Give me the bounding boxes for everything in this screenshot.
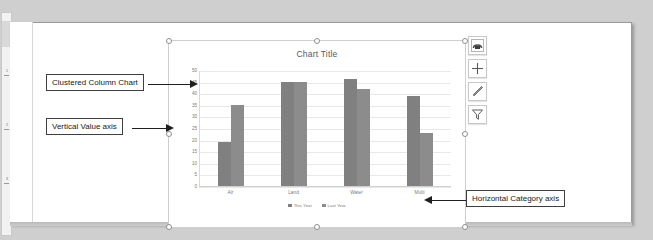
gridline — [199, 187, 451, 188]
bar[interactable] — [344, 79, 357, 186]
value-axis-tick-label: 10 — [192, 162, 197, 167]
callout-vertical-value-axis: Vertical Value axis — [46, 118, 123, 135]
bar-group[interactable] — [218, 71, 244, 186]
clustered-column-chart[interactable]: Chart Title 50454035302520151050 AirLand… — [168, 40, 466, 228]
ruler-tick — [4, 75, 9, 76]
page-left-margin — [10, 22, 33, 222]
bar[interactable] — [357, 89, 370, 186]
value-axis-tick-label: 40 — [192, 92, 197, 97]
value-axis-tick-label: 20 — [192, 138, 197, 143]
callout-arrow-left — [424, 196, 432, 204]
value-axis-tick-label: 35 — [192, 104, 197, 109]
resize-handle-middle-right[interactable] — [462, 131, 468, 137]
bar[interactable] — [407, 96, 420, 186]
legend-item[interactable]: Last Year — [322, 203, 346, 208]
callout-leader-line — [432, 200, 466, 201]
category-axis-tick-label: Air — [210, 190, 252, 195]
plot-area[interactable] — [199, 71, 451, 187]
category-axis-labels[interactable]: AirLandWaterMulti — [199, 190, 451, 195]
category-axis-tick-label: Water — [336, 190, 378, 195]
legend-label: Last Year — [328, 203, 346, 208]
legend-label: This Year — [294, 203, 312, 208]
legend-swatch — [288, 204, 292, 208]
ruler-tick — [4, 183, 9, 184]
chart-legend[interactable]: This YearLast Year — [169, 203, 465, 208]
bar[interactable] — [281, 82, 294, 186]
chart-layout-icon — [471, 39, 484, 52]
bar[interactable] — [294, 82, 307, 186]
callout-leader-line — [148, 84, 192, 85]
chart-styles-button[interactable] — [468, 82, 487, 101]
chart-elements-button[interactable] — [468, 59, 487, 78]
category-axis-tick-label: Land — [273, 190, 315, 195]
value-axis-tick-label: 5 — [194, 173, 197, 178]
resize-handle-bottom-center[interactable] — [314, 224, 320, 230]
callout-clustered-column-chart: Clustered Column Chart — [46, 74, 144, 91]
resize-handle-top-left[interactable] — [166, 38, 172, 44]
funnel-icon — [471, 108, 484, 121]
value-axis-tick-label: 0 — [194, 185, 197, 190]
category-axis-tick-label: Multi — [399, 190, 441, 195]
category-axis-line — [199, 186, 451, 187]
bar[interactable] — [231, 105, 244, 186]
resize-handle-bottom-left[interactable] — [166, 224, 172, 230]
callout-horizontal-category-axis: Horizontal Category axis — [466, 190, 565, 207]
chart-filters-button[interactable] — [468, 105, 487, 124]
ruler-tick — [4, 129, 9, 130]
value-axis-tick-label: 15 — [192, 150, 197, 155]
value-axis-tick-label: 30 — [192, 115, 197, 120]
bar[interactable] — [218, 142, 231, 186]
callout-leader-line — [132, 128, 168, 129]
chart-side-buttons — [468, 36, 487, 128]
bar[interactable] — [420, 133, 433, 186]
bar-group[interactable] — [407, 71, 433, 186]
callout-arrow-right — [166, 124, 174, 132]
bar-series-container — [199, 71, 451, 186]
callout-arrow-right — [190, 80, 198, 88]
resize-handle-bottom-right[interactable] — [462, 224, 468, 230]
plus-icon — [471, 62, 484, 75]
chart-layout-button[interactable] — [468, 36, 487, 55]
value-axis-labels[interactable]: 50454035302520151050 — [183, 71, 197, 187]
legend-swatch — [322, 204, 326, 208]
value-axis-tick-label: 50 — [192, 69, 197, 74]
application-canvas: 1 2 3 Chart Title 50454035302520151050 A… — [0, 0, 653, 240]
legend-item[interactable]: This Year — [288, 203, 312, 208]
value-axis-tick-label: 25 — [192, 127, 197, 132]
paintbrush-icon — [471, 85, 484, 98]
bar-group[interactable] — [281, 71, 307, 186]
bar-group[interactable] — [344, 71, 370, 186]
chart-title[interactable]: Chart Title — [169, 49, 465, 59]
resize-handle-top-center[interactable] — [314, 38, 320, 44]
